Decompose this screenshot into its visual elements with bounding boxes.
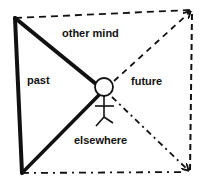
right-dashed-edge [190,14,192,172]
figure-head [95,78,113,96]
label-other-mind: other mind [62,27,119,39]
arrow-up-right [114,12,190,81]
label-future: future [131,75,162,87]
label-past: past [27,74,50,86]
figure-right-leg [104,117,113,123]
mind-diagram: other mind past future elsewhere [0,0,205,187]
figure-left-leg [96,117,104,126]
past-left-edge [15,18,22,173]
top-dashed-edge [15,10,190,18]
bottom-dashdot-edge [22,172,186,173]
stick-figure [95,78,114,126]
label-elsewhere: elsewhere [74,134,127,146]
